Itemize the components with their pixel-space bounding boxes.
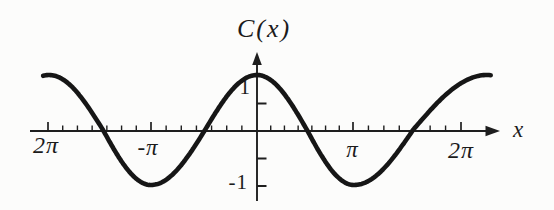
y-tick-label-neg-1: -1	[229, 172, 249, 193]
y-tick-label-1: 1	[240, 77, 251, 98]
x-tick-label-neg-pi: -π	[137, 136, 158, 159]
x-axis-arrow-icon	[486, 126, 501, 136]
x-tick-label-2pi: 2π	[448, 138, 474, 162]
y-axis-title: C(x)	[237, 16, 291, 42]
cosine-function-figure: C(x) x 2π -π π 2π 1 -1	[0, 0, 554, 210]
x-tick-label-neg-2pi: 2π	[33, 133, 59, 157]
x-tick-label-pi: π	[346, 138, 358, 161]
cosine-curve	[43, 75, 491, 185]
x-axis-label: x	[513, 118, 523, 141]
y-axis-arrow-icon	[252, 52, 262, 65]
